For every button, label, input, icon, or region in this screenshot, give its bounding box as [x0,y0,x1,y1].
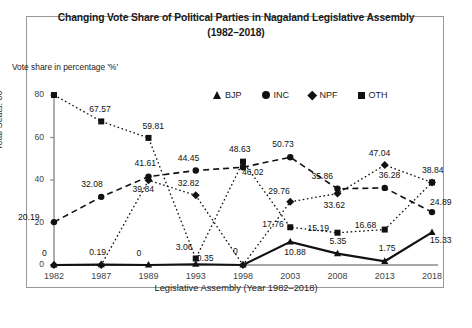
series-marker-oth [146,135,152,141]
series-marker-npf [381,161,389,169]
data-point-label-npf: 47.04 [369,148,391,158]
y-axis-tick-label: 0 [22,259,44,269]
y-axis-tick-label: 40 [22,174,44,184]
series-marker-inc [429,209,435,215]
x-axis-tick-label: 1987 [80,271,122,281]
series-marker-oth [429,179,435,185]
series-marker-oth [51,92,57,98]
series-marker-npf [334,190,342,198]
data-point-label-inc: 46.02 [242,167,264,177]
data-point-label-inc: 32.08 [81,179,103,189]
data-point-label-bjp: 15.33 [430,235,452,245]
data-point-label-npf: 38.84 [422,165,444,175]
x-axis-tick-label: 1993 [175,271,217,281]
y-axis-tick-label: 60 [22,132,44,142]
data-point-label-inc: 36.28 [379,170,401,180]
data-point-label-npf: 33.62 [324,200,346,210]
x-axis-tick-label: 2018 [411,271,453,281]
data-point-label-npf: 39.84 [133,184,155,194]
data-point-label-inc: 20.19 [18,212,40,222]
data-point-label-bjp: 5.35 [330,236,347,246]
series-line-bjp [54,232,432,265]
series-marker-npf [192,191,200,199]
series-marker-oth [287,224,293,230]
data-point-label-oth: 48.63 [229,144,251,154]
data-point-label-bjp: 0 [42,248,47,258]
data-point-label-oth: 15.19 [308,223,330,233]
data-point-label-oth: 67.57 [89,104,111,114]
data-point-label-bjp: 0 [233,246,238,256]
data-point-label-bjp: 1.75 [379,243,396,253]
data-point-label-inc: 41.61 [135,158,157,168]
x-axis-tick-label: 2008 [317,271,359,281]
data-point-label-npf: 29.76 [268,186,290,196]
series-marker-inc [382,185,388,191]
data-point-label-bjp: 0.19 [89,247,106,257]
x-axis-tick-label: 1989 [128,271,170,281]
series-marker-bjp [428,228,435,235]
series-line-npf [54,165,432,265]
series-marker-oth [382,227,388,233]
series-marker-npf [97,261,105,269]
data-point-label-oth: 59.81 [143,121,165,131]
series-marker-bjp [287,238,294,245]
series-marker-oth [98,118,104,124]
data-point-label-npf: 32.82 [178,178,200,188]
data-point-label-bjp: 0 [137,248,142,258]
series-marker-npf [50,261,58,269]
series-marker-inc [98,194,104,200]
series-marker-oth [240,159,246,165]
data-point-label-inc: 24.89 [430,197,452,207]
data-point-label-oth: 3.06 [176,242,193,252]
data-point-label-oth: 16.68 [355,220,377,230]
x-axis-tick-label: 2013 [364,271,406,281]
x-axis-tick-label: 2003 [269,271,311,281]
series-marker-inc [287,154,293,160]
x-axis-tick-label: 1998 [222,271,264,281]
data-point-label-inc: 44.45 [178,153,200,163]
series-marker-inc [193,167,199,173]
data-point-label-bjp: 10.88 [284,247,306,257]
x-axis-tick-label: 1982 [33,271,75,281]
data-point-label-bjp: 0.35 [197,253,214,263]
data-point-label-inc: 50.73 [272,139,294,149]
data-point-label-oth: 17.76 [262,219,284,229]
series-marker-inc [51,219,57,225]
data-point-label-inc: 35.86 [312,171,334,181]
y-axis-tick-label: 80 [22,89,44,99]
